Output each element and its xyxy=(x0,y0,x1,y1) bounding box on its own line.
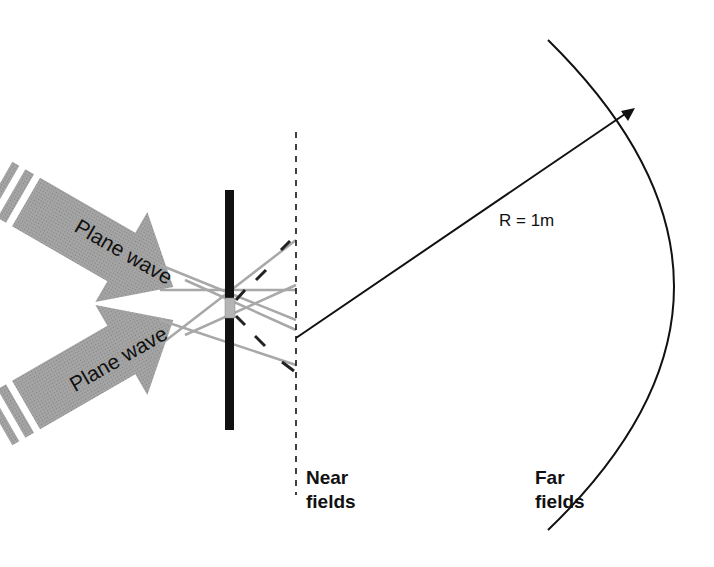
far-fields-line1: Far xyxy=(535,466,585,490)
far-fields-label: Far fields xyxy=(535,466,585,514)
radius-label: R = 1m xyxy=(499,211,554,231)
aperture xyxy=(225,298,235,318)
far-field-arc xyxy=(548,40,674,530)
near-fields-line1: Near xyxy=(306,466,356,490)
diagram-canvas: Plane wave Plane wave xyxy=(0,0,714,567)
far-fields-line2: fields xyxy=(535,490,585,514)
near-fields-line2: fields xyxy=(306,490,356,514)
radius-arrow-line xyxy=(296,114,625,338)
near-fields-label: Near fields xyxy=(306,466,356,514)
